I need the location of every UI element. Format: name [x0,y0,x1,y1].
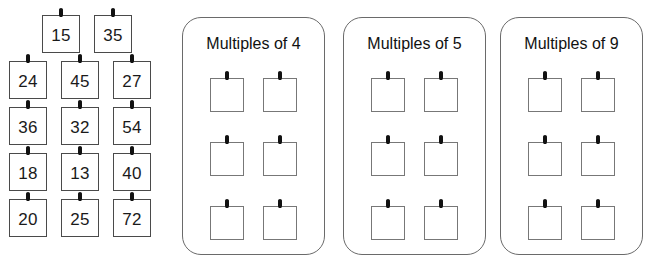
pin-icon [278,136,281,144]
pin-icon [439,136,442,144]
number-tile[interactable]: 36 [9,107,47,145]
drop-slot[interactable] [263,78,297,112]
drop-slot[interactable] [371,142,405,176]
number-tile-value: 54 [122,118,142,135]
pin-icon [596,200,599,208]
category-panel-title: Multiples of 4 [183,36,324,52]
category-panel-1[interactable]: Multiples of 4 [182,17,325,255]
number-tile-value: 35 [103,26,123,43]
number-tile-value: 15 [51,26,71,43]
pin-icon [130,55,133,63]
number-tile-value: 24 [18,72,38,89]
pin-icon [78,101,81,109]
pin-icon [78,147,81,155]
pin-icon [386,200,389,208]
category-panel-title: Multiples of 5 [344,36,485,52]
pin-icon [225,200,228,208]
drop-slot[interactable] [528,78,562,112]
number-tile-value: 13 [70,164,90,181]
drop-slot[interactable] [210,78,244,112]
number-tile-value: 32 [70,118,90,135]
pin-icon [543,200,546,208]
pin-icon [439,200,442,208]
number-tile-value: 40 [122,164,142,181]
pin-icon [78,55,81,63]
pin-icon [439,72,442,80]
number-tile-value: 25 [70,210,90,227]
number-tile[interactable]: 27 [113,61,151,99]
category-panel-title: Multiples of 9 [501,36,642,52]
number-tile-value: 20 [18,210,38,227]
pin-icon [26,101,29,109]
pin-icon [596,136,599,144]
pin-icon [26,147,29,155]
number-tile[interactable]: 54 [113,107,151,145]
number-tile[interactable]: 20 [9,199,47,237]
pin-icon [78,193,81,201]
pin-icon [225,72,228,80]
number-tile[interactable]: 18 [9,153,47,191]
pin-icon [386,72,389,80]
number-tile-value: 27 [122,72,142,89]
drop-slot[interactable] [424,78,458,112]
number-tile[interactable]: 15 [42,15,80,53]
pin-icon [225,136,228,144]
worksheet-canvas: 1535244527363254181340202572Multiples of… [0,0,653,268]
drop-slot[interactable] [210,206,244,240]
pin-icon [596,72,599,80]
drop-slot[interactable] [581,142,615,176]
drop-slot[interactable] [424,206,458,240]
drop-slot[interactable] [581,206,615,240]
pin-icon [543,72,546,80]
pin-icon [386,136,389,144]
number-tile-value: 45 [70,72,90,89]
drop-slot[interactable] [210,142,244,176]
drop-slot[interactable] [371,78,405,112]
number-tile[interactable]: 13 [61,153,99,191]
drop-slot[interactable] [424,142,458,176]
pin-icon [278,72,281,80]
pin-icon [26,55,29,63]
pin-icon [59,9,62,17]
drop-slot[interactable] [528,206,562,240]
number-tile[interactable]: 45 [61,61,99,99]
number-tile-value: 36 [18,118,38,135]
drop-slot[interactable] [581,78,615,112]
drop-slot[interactable] [371,206,405,240]
number-tile[interactable]: 40 [113,153,151,191]
number-tile[interactable]: 32 [61,107,99,145]
number-tile-value: 72 [122,210,142,227]
pin-icon [130,147,133,155]
drop-slot[interactable] [263,142,297,176]
number-tile[interactable]: 25 [61,199,99,237]
pin-icon [130,193,133,201]
pin-icon [130,101,133,109]
drop-slot[interactable] [263,206,297,240]
pin-icon [26,193,29,201]
number-tile[interactable]: 72 [113,199,151,237]
pin-icon [278,200,281,208]
number-tile[interactable]: 35 [94,15,132,53]
category-panel-2[interactable]: Multiples of 5 [343,17,486,255]
pin-icon [111,9,114,17]
category-panel-3[interactable]: Multiples of 9 [500,17,643,255]
number-tile[interactable]: 24 [9,61,47,99]
drop-slot[interactable] [528,142,562,176]
number-tile-value: 18 [18,164,38,181]
pin-icon [543,136,546,144]
